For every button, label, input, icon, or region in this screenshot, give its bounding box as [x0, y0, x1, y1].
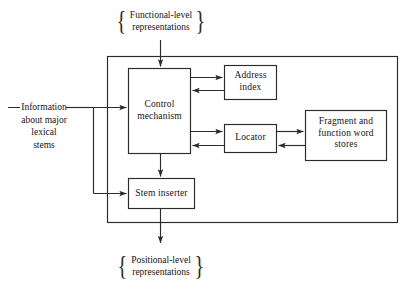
functional-level-representations-text: Functional-level representations: [128, 9, 194, 33]
positional-level-representations-label: { Positional-level representations }: [108, 249, 214, 283]
information-line-1: Information: [21, 102, 66, 112]
left-brace-bottom: {: [118, 253, 128, 279]
stem-inserter-box: [129, 179, 195, 209]
address-index-box: [225, 66, 277, 100]
functional-level-representations-label: { Functional-level representations }: [108, 4, 214, 38]
right-brace-bottom: }: [194, 253, 204, 279]
functional-level-line-2: representations: [132, 22, 190, 32]
positional-level-representations-text: Positional-level representations: [129, 254, 193, 278]
left-brace-top: {: [117, 8, 127, 34]
positional-level-line-2: representations: [132, 267, 190, 277]
diagram-canvas: { Functional-level representations } { P…: [0, 0, 410, 287]
information-about-major-lexical-stems-label: Information about major lexical stems: [20, 101, 68, 151]
information-dash-mark: [8, 107, 20, 108]
locator-box: [225, 125, 277, 153]
control-mechanism-box: [129, 69, 191, 154]
information-line-2: about major: [21, 115, 67, 125]
positional-level-line-1: Positional-level: [131, 255, 191, 265]
functional-level-line-1: Functional-level: [130, 10, 192, 20]
information-line-3: lexical stems: [31, 127, 56, 150]
right-brace-top: }: [196, 8, 206, 34]
fragment-stores-box: [306, 111, 387, 161]
system-boundary-rect: [108, 57, 398, 223]
